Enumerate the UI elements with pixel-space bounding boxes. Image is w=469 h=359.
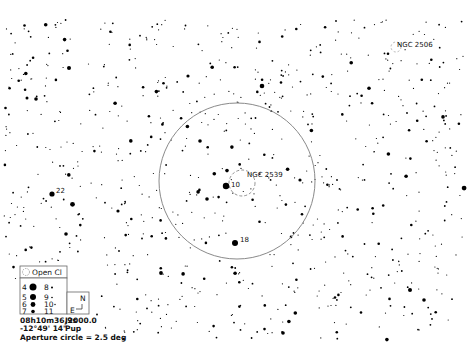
background-star [129,263,130,264]
background-star [377,143,378,144]
background-star [191,112,192,113]
background-star [319,44,321,46]
background-star [319,307,320,308]
background-star [198,43,200,45]
background-star [159,271,163,275]
background-star [30,246,33,249]
background-star [182,91,184,93]
background-star [46,78,47,79]
background-star [447,186,449,188]
background-star [432,140,433,141]
mag-label: 4 [22,283,27,292]
mag-label: 11 [44,307,54,316]
background-star [205,242,208,245]
background-star [224,131,225,132]
sky-map[interactable]: NGC 2539 NGC 2506 10 18 22 Open Cl 4 [0,0,469,359]
background-star [16,145,17,146]
background-star [426,22,427,23]
background-star [175,224,176,225]
background-star [387,52,390,55]
object-ngc2506[interactable]: NGC 2506 [391,41,433,52]
background-star [240,97,241,98]
background-star [189,192,190,193]
background-star [93,150,96,153]
background-star [446,274,447,275]
background-star [369,124,370,125]
background-star [136,298,139,301]
background-star [145,151,146,152]
background-star [418,192,419,193]
background-star [45,147,46,148]
background-star [225,233,226,234]
background-star [270,179,272,181]
background-star [439,47,441,49]
background-star [281,70,283,72]
background-star [26,97,29,100]
star-22[interactable]: 22 [49,187,65,197]
background-star [451,214,452,215]
background-star [456,151,457,152]
background-star [168,276,169,277]
background-star [11,78,12,79]
background-star [350,306,352,308]
background-star [31,78,32,79]
background-star [255,117,257,119]
background-star [438,93,439,94]
background-star [419,31,420,32]
background-star [319,155,320,156]
background-star [443,62,445,64]
mag-dot [30,284,37,291]
background-star [146,38,147,39]
background-star [321,231,322,232]
background-star [151,26,153,28]
background-star [194,306,195,307]
star-10[interactable]: 10 [223,181,240,189]
background-star [238,273,239,274]
background-star [237,66,239,68]
star-18[interactable]: 18 [232,236,249,246]
background-star [58,260,59,261]
background-star [52,258,53,259]
background-star [133,255,134,256]
background-star [406,195,407,196]
background-star [387,60,388,61]
background-star [190,247,191,248]
background-star [311,181,312,182]
background-star [70,39,71,40]
background-star [43,198,45,200]
background-star [356,93,358,95]
background-star [458,122,461,125]
background-star [310,129,314,133]
background-star [376,138,377,139]
background-star [204,97,205,98]
background-star [449,83,450,84]
background-star [270,104,271,105]
background-star [41,114,42,115]
background-star [303,111,304,112]
background-star [166,87,168,89]
background-star [324,223,325,224]
background-star [437,268,438,269]
background-star [104,64,105,65]
background-star [273,154,274,155]
background-star [333,298,334,299]
background-star [184,28,185,29]
background-star [209,63,211,65]
background-star [80,239,81,240]
background-star [416,63,417,64]
background-star [301,213,304,216]
background-star [127,271,129,273]
background-star [44,95,46,97]
background-star [321,176,322,177]
background-star [194,239,195,240]
background-star [143,95,144,96]
background-star [179,299,180,300]
background-star [108,83,109,84]
background-star [402,105,403,106]
background-star [134,176,135,177]
background-star [182,150,184,152]
background-star [451,298,453,300]
background-star [385,58,386,59]
background-star [222,37,223,38]
background-star [365,146,366,147]
